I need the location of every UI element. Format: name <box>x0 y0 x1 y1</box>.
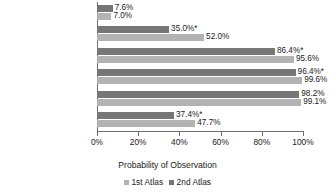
chart-row: Southern Shield86.4%*95.6% <box>0 45 335 67</box>
x-tick-label: 60% <box>201 137 241 147</box>
legend-item-2nd-atlas: 2nd Atlas <box>169 177 211 187</box>
bar-2nd-atlas <box>97 26 169 33</box>
bar-value-label: 35.0%* <box>169 25 197 33</box>
x-tick-mark <box>138 132 139 136</box>
chart-row: Carolinian98.2%99.1% <box>0 88 335 110</box>
x-tick-mark <box>179 132 180 136</box>
x-tick-mark <box>221 132 222 136</box>
bar-2nd-atlas <box>97 69 296 76</box>
legend-label-1st-atlas: 1st Atlas <box>131 177 163 187</box>
bar-value-label: 47.7% <box>195 119 220 127</box>
bar-chart: Hudson Bay Lowlands7.6%7.0%Northern Shie… <box>0 0 335 192</box>
x-tick-mark <box>262 132 263 136</box>
legend-swatch-2nd-atlas <box>169 180 174 185</box>
x-tick-mark <box>303 132 304 136</box>
bar-1st-atlas <box>97 34 204 41</box>
bar-value-label: 95.6% <box>294 55 319 63</box>
chart-row: Lake Simcoe-Rideau96.4%*99.6% <box>0 67 335 89</box>
x-axis-title: Probability of Observation <box>0 160 335 170</box>
bar-1st-atlas <box>97 77 302 84</box>
bar-value-label: 7.0% <box>111 12 132 20</box>
legend-item-1st-atlas: 1st Atlas <box>124 177 163 187</box>
legend-swatch-1st-atlas <box>124 180 129 185</box>
chart-row: Hudson Bay Lowlands7.6%7.0% <box>0 2 335 24</box>
bar-value-label: 52.0% <box>204 33 229 41</box>
bar-1st-atlas <box>97 13 111 20</box>
x-tick-label: 80% <box>242 137 282 147</box>
bar-2nd-atlas <box>97 5 113 12</box>
x-tick-label: 20% <box>118 137 158 147</box>
x-tick-label: 40% <box>159 137 199 147</box>
bar-2nd-atlas <box>97 91 299 98</box>
legend-label-2nd-atlas: 2nd Atlas <box>177 177 211 187</box>
chart-row: Northern Shield35.0%*52.0% <box>0 24 335 46</box>
x-axis-line <box>97 131 304 132</box>
x-tick-mark <box>97 132 98 136</box>
bar-value-label: 99.6% <box>302 76 327 84</box>
bar-2nd-atlas <box>97 48 275 55</box>
bar-value-label: 99.1% <box>301 98 326 106</box>
x-tick-label: 100% <box>283 137 323 147</box>
chart-legend: 1st Atlas 2nd Atlas <box>0 177 335 187</box>
bar-1st-atlas <box>97 120 195 127</box>
bar-1st-atlas <box>97 56 294 63</box>
bar-1st-atlas <box>97 99 301 106</box>
x-tick-label: 0% <box>77 137 117 147</box>
bar-2nd-atlas <box>97 112 174 119</box>
chart-row: Ontario37.4%*47.7% <box>0 110 335 132</box>
